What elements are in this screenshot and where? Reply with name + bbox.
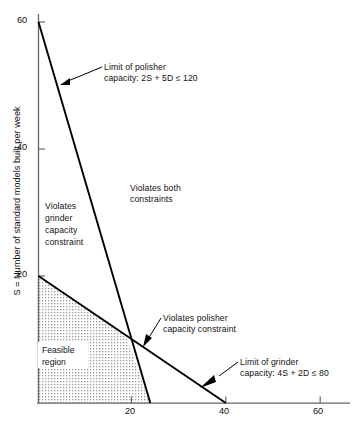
violates-both-label-line1: Violates both [130, 183, 181, 195]
feasible-region-label-line1: Feasible [42, 345, 74, 355]
polisher-limit-arrowhead [60, 78, 70, 85]
violates-polisher-leader [148, 318, 161, 339]
feasible-region-label-line2: region [42, 357, 66, 367]
y-tick-label-60: 60 [17, 15, 27, 25]
violates-both-label-line2: constraints [130, 194, 173, 206]
violates-grinder-label-line2: grinder [45, 213, 72, 225]
violates-polisher-label-line1: Violates polisher [163, 313, 228, 325]
violates-grinder-label-line4: constraint [45, 237, 83, 249]
polisher-limit-leader [68, 67, 102, 81]
y-tick-label-40: 40 [17, 142, 27, 152]
violates-polisher-arrowhead [143, 334, 152, 347]
y-tick-label-20: 20 [17, 269, 27, 279]
violates-grinder-label-line1: Violates [45, 201, 76, 213]
x-tick-label-40: 40 [219, 406, 229, 416]
grinder-limit-arrowhead [200, 375, 216, 388]
feasible-region-label: Feasibleregion [40, 344, 76, 369]
x-tick-label-60: 60 [313, 406, 323, 416]
grinder-limit-leader [219, 362, 238, 376]
grinder-limit-label-line2: capacity: 4S + 2D ≤ 80 [240, 368, 329, 380]
polisher-limit-label-line2: capacity: 2S + 5D ≤ 120 [104, 73, 198, 85]
x-tick-label-20: 20 [125, 406, 135, 416]
grinder-limit-label-line1: Limit of grinder [240, 357, 298, 369]
polisher-limit-label-line1: Limit of polisher [104, 62, 166, 74]
violates-grinder-label-line3: capacity [45, 225, 77, 237]
violates-polisher-label-line2: capacity constraint [163, 324, 236, 336]
